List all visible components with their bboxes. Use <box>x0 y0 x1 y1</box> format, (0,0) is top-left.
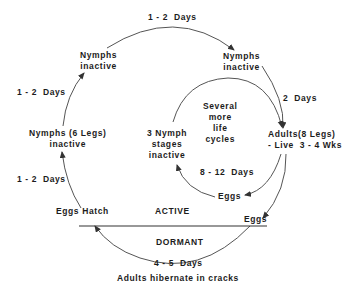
zone-dormant: DORMANT <box>156 237 204 248</box>
node-nymphs-6-legs: Nymphs (6 Legs) inactive <box>29 128 107 150</box>
arrow-adults-eggs-outer <box>263 154 286 218</box>
node-eggs-outer: Eggs <box>244 214 267 225</box>
caption: Adults hibernate in cracks <box>117 273 239 284</box>
arrow-top <box>107 27 234 50</box>
node-eggs-inner: Eggs <box>218 191 241 202</box>
node-adults: Adults(8 Legs) - Live 3 - 4 Wks <box>268 129 342 151</box>
node-three-nymph-stages: 3 Nymph stages inactive <box>147 128 187 161</box>
node-eggs-hatch: Eggs Hatch <box>56 206 109 217</box>
duration-right: 2 Days <box>283 93 317 104</box>
node-nymphs-top-left: Nymphs inactive <box>80 50 117 72</box>
arrow-left-upper <box>63 73 84 126</box>
node-several-life-cycles: Several more life cycles <box>203 101 237 145</box>
tick-life-cycle-diagram: 1 - 2 Days 1 - 2 Days 1 - 2 Days 2 Days … <box>0 0 357 294</box>
node-nymphs-top-right: Nymphs inactive <box>223 51 260 73</box>
duration-left-lower: 1 - 2 Days <box>17 174 66 185</box>
duration-top: 1 - 2 Days <box>148 12 197 23</box>
zone-active: ACTIVE <box>155 206 190 217</box>
duration-dormant: 4 - 5 Days <box>154 258 203 269</box>
duration-inner: 8 - 12 Days <box>200 167 254 178</box>
duration-left-upper: 1 - 2 Days <box>17 87 66 98</box>
